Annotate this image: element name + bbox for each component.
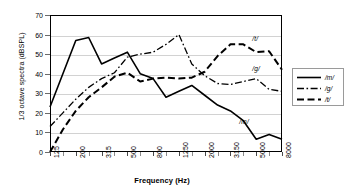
legend-label: /m/ [322,74,334,81]
legend-swatch [296,95,322,104]
x-tick [230,152,231,156]
x-tick-label: 8000 [285,142,292,158]
y-axis-title: 1/3 octave spectra (dBSPL) [18,12,25,142]
x-tick [50,152,51,156]
x-tick [179,152,180,156]
y-tick [45,113,50,114]
y-tick-label: 60 [27,31,43,38]
x-tick [63,152,64,156]
y-tick [45,74,50,75]
x-tick [243,152,244,156]
y-tick [45,35,50,36]
x-tick [140,152,141,156]
x-tick-label: 800 [156,146,163,158]
series-line-t [50,44,282,152]
legend: /m//g//t/ [292,68,344,106]
x-tick [218,152,219,156]
y-tick-label: 10 [27,129,43,136]
x-tick-label: 500 [130,146,137,158]
x-tick [269,152,270,156]
legend-swatch [296,73,322,82]
x-tick [205,152,206,156]
x-tick-label: 1250 [182,142,189,158]
x-tick-label: 315 [105,146,112,158]
legend-label: /g/ [322,85,332,92]
y-tick-label: 40 [27,70,43,77]
x-tick [282,152,283,156]
series-annotation: /g/ [252,65,260,72]
series-annotation: /m/ [239,118,249,125]
y-tick [45,54,50,55]
legend-item[interactable]: /t/ [296,94,340,105]
legend-item[interactable]: /m/ [296,72,340,83]
x-tick [192,152,193,156]
x-tick-label: 5000 [259,142,266,158]
y-tick-label: 0 [27,149,43,156]
y-tick-label: 70 [27,12,43,19]
y-tick [45,15,50,16]
y-axis-tick-labels: 010203040506070 [26,15,47,152]
x-tick-label: 200 [79,146,86,158]
series-line-g [50,35,282,127]
y-tick-label: 30 [27,90,43,97]
y-tick [45,132,50,133]
legend-item[interactable]: /g/ [296,83,340,94]
series-annotation: /t/ [252,35,258,42]
x-tick [166,152,167,156]
y-tick-label: 20 [27,109,43,116]
chart-figure: 1/3 octave spectra (dBSPL) 0102030405060… [0,0,349,193]
legend-label: /t/ [322,96,330,103]
x-tick [256,152,257,156]
x-axis-title: Frequency (Hz) [40,176,284,185]
x-tick [76,152,77,156]
x-tick [127,152,128,156]
x-tick [89,152,90,156]
x-tick [153,152,154,156]
x-tick-label: 2000 [208,142,215,158]
y-tick-label: 50 [27,51,43,58]
x-tick [102,152,103,156]
x-tick-label: 3150 [233,142,240,158]
legend-swatch [296,84,322,93]
series-lines [50,15,282,152]
y-tick [45,93,50,94]
x-tick [114,152,115,156]
x-tick-label: 125 [53,146,60,158]
